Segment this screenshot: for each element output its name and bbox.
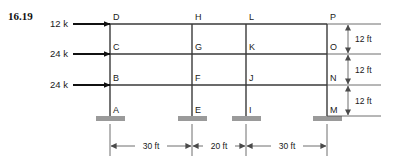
node-label-f: F (195, 73, 201, 83)
lateral-loads: 12 k 24 k 24 k (50, 18, 110, 90)
horizontal-dimensions: 30 ft 20 ft 30 ft (110, 124, 327, 156)
vdim-label-2: 12 ft (355, 65, 372, 75)
node-label-o: O (330, 42, 337, 52)
hdim-label-1: 30 ft (143, 141, 160, 151)
node-label-c: C (113, 42, 120, 52)
load-label-middle: 24 k (50, 48, 68, 59)
node-label-i: I (249, 105, 252, 115)
node-labels-top: D H L P (113, 12, 336, 22)
node-labels-third: C G K O (113, 42, 337, 52)
node-label-d: D (113, 12, 120, 22)
node-label-k: K (249, 42, 255, 52)
node-label-b: B (113, 73, 119, 83)
vertical-dimensions: 12 ft 12 ft 12 ft (327, 24, 381, 116)
hdim-label-3: 30 ft (279, 141, 296, 151)
frame-members (110, 24, 327, 116)
node-label-h: H (195, 12, 202, 22)
support-fixed-e (178, 116, 207, 121)
support-fixed-a (96, 116, 125, 121)
node-label-l: L (249, 12, 254, 22)
node-label-a: A (113, 105, 119, 115)
vdim-label-3: 12 ft (355, 96, 372, 106)
supports (96, 116, 342, 121)
node-labels-base: A E I M (113, 105, 338, 115)
node-label-n: N (330, 73, 337, 83)
load-label-bottom: 24 k (50, 79, 68, 90)
node-label-e: E (195, 105, 201, 115)
frame-diagram: 16.19 (0, 0, 397, 163)
support-fixed-i (232, 116, 261, 121)
support-fixed-m (313, 116, 342, 121)
node-label-g: G (195, 42, 202, 52)
node-labels-second: B F J N (113, 73, 337, 83)
node-label-p: P (330, 12, 336, 22)
node-label-j: J (249, 73, 254, 83)
frame-drawing: 12 k 24 k 24 k D H L P C G K O B F J N A… (0, 0, 397, 163)
load-label-top: 12 k (50, 18, 68, 29)
hdim-label-2: 20 ft (211, 141, 228, 151)
node-label-m: M (330, 105, 338, 115)
vdim-label-1: 12 ft (355, 34, 372, 44)
